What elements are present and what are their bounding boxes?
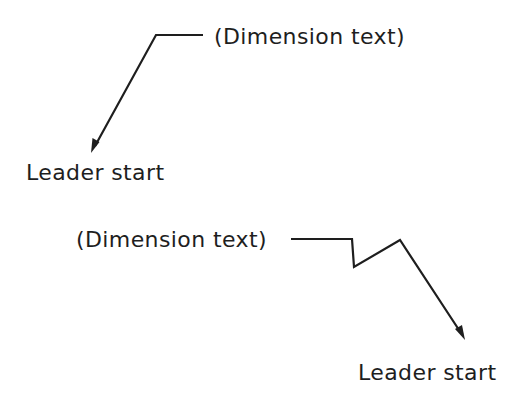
leader-example-1: (Dimension text) Leader start bbox=[26, 24, 405, 185]
dimension-text-1: (Dimension text) bbox=[214, 24, 405, 49]
leader-diagram: (Dimension text) Leader start (Dimension… bbox=[0, 0, 514, 396]
dimension-text-2: (Dimension text) bbox=[76, 227, 267, 252]
leader-line-2 bbox=[291, 239, 461, 333]
leader-start-label-2: Leader start bbox=[358, 360, 496, 385]
diagram-svg: (Dimension text) Leader start (Dimension… bbox=[0, 0, 514, 396]
leader-line-1 bbox=[95, 35, 203, 146]
leader-example-2: (Dimension text) Leader start bbox=[76, 227, 496, 385]
leader-start-label-1: Leader start bbox=[26, 160, 164, 185]
